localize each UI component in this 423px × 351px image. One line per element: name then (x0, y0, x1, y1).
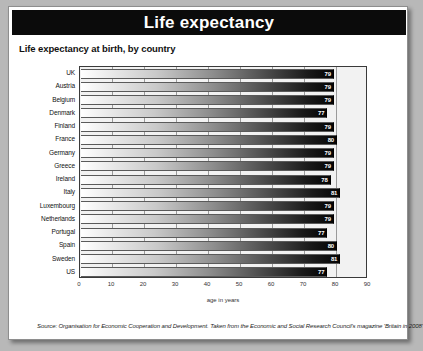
bar-value-label: 79 (325, 96, 331, 104)
category-label: UK (0, 66, 75, 79)
x-tick-label: 80 (332, 281, 339, 287)
source-note: Source: Organisation for Economic Cooper… (37, 323, 405, 329)
bar[interactable]: 78 (81, 175, 331, 185)
category-label: Denmark (0, 106, 75, 119)
bar[interactable]: 79 (81, 95, 334, 105)
bar-row: 79 (80, 80, 366, 93)
category-label: Spain (0, 238, 75, 251)
category-label: Finland (0, 119, 75, 132)
bar-row: 81 (80, 253, 366, 266)
chart-figure: Life expectancy Life expectancy at birth… (8, 6, 408, 340)
x-tick-label: 90 (364, 281, 371, 287)
x-tick-label: 30 (172, 281, 179, 287)
bar-row: 80 (80, 133, 366, 146)
bar[interactable]: 79 (81, 161, 334, 171)
bar-value-label: 78 (321, 176, 327, 184)
category-label: US (0, 265, 75, 278)
bar[interactable]: 80 (81, 241, 337, 251)
x-axis: 0102030405060708090 (79, 281, 367, 295)
plot-area: 79797977798079797881797977808177 (79, 66, 367, 278)
bar-row: 81 (80, 186, 366, 199)
x-tick-label: 20 (140, 281, 147, 287)
bar-row: 79 (80, 147, 366, 160)
bar-row: 77 (80, 107, 366, 120)
bar-value-label: 80 (328, 136, 334, 144)
chart-subtitle: Life expectancy at birth, by country (19, 43, 175, 54)
chart-title-banner: Life expectancy (12, 10, 406, 35)
bar-row: 79 (80, 67, 366, 80)
bar-value-label: 79 (325, 70, 331, 78)
bar[interactable]: 77 (81, 267, 327, 277)
bar-row: 79 (80, 94, 366, 107)
category-label: Belgium (0, 93, 75, 106)
bar-value-label: 79 (325, 162, 331, 170)
bar-value-label: 81 (331, 189, 337, 197)
category-label: Ireland (0, 172, 75, 185)
category-label: Germany (0, 146, 75, 159)
bar-value-label: 79 (325, 202, 331, 210)
bar-row: 78 (80, 173, 366, 186)
x-axis-title: age in years (79, 297, 367, 303)
x-tick-label: 0 (77, 281, 80, 287)
bar-value-label: 81 (331, 255, 337, 263)
x-tick-label: 40 (204, 281, 211, 287)
bar-value-label: 79 (325, 83, 331, 91)
category-label: Portugal (0, 225, 75, 238)
bar[interactable]: 79 (81, 148, 334, 158)
category-label: Greece (0, 159, 75, 172)
category-label: Italy (0, 185, 75, 198)
bar[interactable]: 80 (81, 135, 337, 145)
bar-row: 77 (80, 266, 366, 279)
bar-value-label: 79 (325, 149, 331, 157)
page-title: Life expectancy (144, 13, 275, 33)
bar-value-label: 77 (318, 229, 324, 237)
bar-value-label: 77 (318, 109, 324, 117)
bar-row: 79 (80, 120, 366, 133)
bar[interactable]: 81 (81, 254, 340, 264)
bar-value-label: 79 (325, 215, 331, 223)
bar-value-label: 79 (325, 123, 331, 131)
bar-row: 77 (80, 226, 366, 239)
bar-value-label: 80 (328, 242, 334, 250)
category-label: Netherlands (0, 212, 75, 225)
bar[interactable]: 81 (81, 188, 340, 198)
bar[interactable]: 79 (81, 201, 334, 211)
bar[interactable]: 79 (81, 82, 334, 92)
x-tick-label: 50 (236, 281, 243, 287)
bar[interactable]: 79 (81, 122, 334, 132)
category-label: Austria (0, 79, 75, 92)
bar-row: 79 (80, 200, 366, 213)
bar[interactable]: 77 (81, 108, 327, 118)
category-label: France (0, 132, 75, 145)
category-label: Sweden (0, 252, 75, 265)
bar-row: 80 (80, 239, 366, 252)
bar-value-label: 77 (318, 268, 324, 276)
bar[interactable]: 79 (81, 214, 334, 224)
chart-area: 79797977798079797881797977808177 0102030… (19, 63, 399, 303)
bar[interactable]: 77 (81, 228, 327, 238)
bar-row: 79 (80, 160, 366, 173)
bar[interactable]: 79 (81, 69, 334, 79)
category-label: Luxembourg (0, 199, 75, 212)
x-tick-label: 10 (108, 281, 115, 287)
x-tick-label: 70 (300, 281, 307, 287)
x-tick-label: 60 (268, 281, 275, 287)
bar-row: 79 (80, 213, 366, 226)
